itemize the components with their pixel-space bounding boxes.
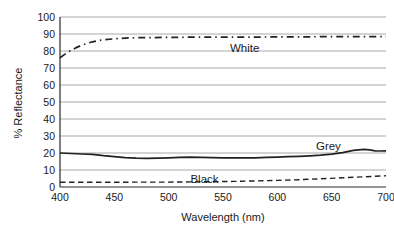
y-tick-label-10: 10 (43, 164, 55, 176)
x-tick-label-400: 400 (51, 191, 69, 203)
reflectance-chart-figure: 0102030405060708090100400450500550600650… (0, 0, 394, 235)
y-tick-label-20: 20 (43, 147, 55, 159)
x-tick-label-650: 650 (323, 191, 341, 203)
y-tick-label-50: 50 (43, 96, 55, 108)
series-label-black: Black (190, 173, 218, 185)
x-tick-label-700: 700 (377, 191, 394, 203)
reflectance-line-chart: 0102030405060708090100400450500550600650… (0, 0, 394, 235)
y-tick-label-80: 80 (43, 45, 55, 57)
y-axis-title: % Reflectance (12, 68, 24, 139)
x-tick-label-500: 500 (160, 191, 178, 203)
x-axis-title: Wavelength (nm) (181, 211, 264, 223)
y-tick-label-40: 40 (43, 113, 55, 125)
y-tick-label-70: 70 (43, 62, 55, 74)
series-line-black (60, 176, 386, 182)
y-tick-label-100: 100 (37, 11, 55, 23)
x-tick-label-550: 550 (214, 191, 232, 203)
x-tick-label-600: 600 (269, 191, 287, 203)
y-tick-label-60: 60 (43, 79, 55, 91)
series-label-grey: Grey (316, 140, 341, 152)
series-label-white: White (230, 42, 259, 54)
x-tick-label-450: 450 (106, 191, 124, 203)
y-tick-label-30: 30 (43, 130, 55, 142)
series-line-white (60, 37, 386, 58)
y-tick-label-90: 90 (43, 28, 55, 40)
